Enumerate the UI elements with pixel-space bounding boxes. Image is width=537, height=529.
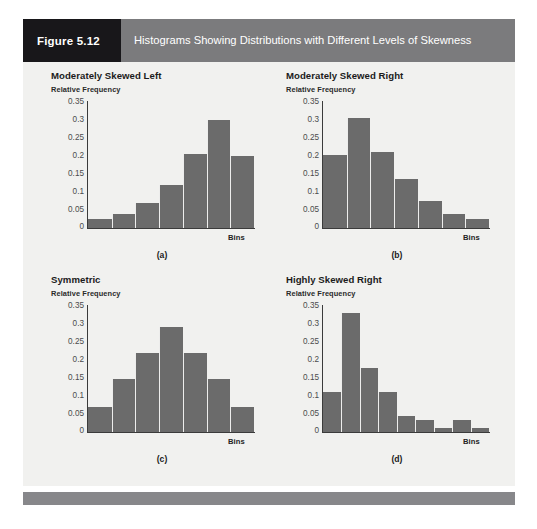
histogram-bar (347, 118, 371, 228)
y-tick-label: 0.35 (273, 302, 319, 310)
x-axis-line-b (322, 228, 490, 229)
y-tick-label: 0.25 (38, 338, 84, 346)
histogram-bar (88, 219, 112, 228)
y-tick-label: 0 (273, 427, 319, 435)
panel-caption-d: (d) (271, 454, 501, 464)
y-tick-label: 0.2 (38, 152, 84, 160)
histogram-bar (112, 214, 136, 228)
plot-area-d: 0.350.30.250.20.150.10.050 Bins (271, 274, 501, 470)
y-tick-labels-d: 0.350.30.250.20.150.10.050 (271, 274, 319, 470)
histogram-bar (415, 420, 433, 432)
histogram-bar (378, 392, 396, 432)
plot-area-a: 0.350.30.250.20.150.10.050 Bins (36, 70, 266, 266)
histogram-bar (370, 152, 394, 228)
histogram-bar (207, 120, 231, 228)
histogram-bar (159, 185, 183, 228)
figure-number-label: Figure 5.12 (23, 19, 121, 62)
histogram-bar (135, 203, 159, 228)
histogram-bar (183, 353, 207, 432)
y-tick-label: 0.05 (273, 206, 319, 214)
chart-panel-c: Symmetric Relative Frequency 0.350.30.25… (36, 274, 266, 470)
y-tick-labels-a: 0.350.30.250.20.150.10.050 (36, 70, 84, 266)
figure-body: Moderately Skewed Left Relative Frequenc… (23, 62, 515, 486)
x-axis-title-c: Bins (228, 437, 245, 446)
histogram-bar (394, 179, 418, 228)
y-tick-label: 0 (273, 223, 319, 231)
y-tick-label: 0.1 (273, 392, 319, 400)
y-tick-label: 0.3 (273, 116, 319, 124)
x-axis-title-d: Bins (463, 437, 480, 446)
bar-series-d (323, 306, 489, 432)
histogram-bar (360, 368, 378, 432)
y-tick-label: 0.1 (273, 188, 319, 196)
histogram-bar (112, 379, 136, 432)
histogram-bar (434, 428, 452, 432)
histogram-bar (442, 214, 466, 228)
y-tick-label: 0.25 (273, 338, 319, 346)
y-tick-label: 0 (38, 223, 84, 231)
x-axis-line-a (87, 228, 255, 229)
histogram-bar (452, 420, 470, 432)
histogram-bar (230, 407, 254, 432)
chart-panel-a: Moderately Skewed Left Relative Frequenc… (36, 70, 266, 266)
y-tick-label: 0.35 (38, 98, 84, 106)
y-tick-labels-b: 0.350.30.250.20.150.10.050 (271, 70, 319, 266)
histogram-bar (183, 154, 207, 228)
y-tick-label: 0.2 (38, 356, 84, 364)
y-tick-label: 0.3 (38, 116, 84, 124)
y-tick-label: 0.35 (38, 302, 84, 310)
y-tick-label: 0.3 (38, 320, 84, 328)
y-tick-label: 0.2 (273, 356, 319, 364)
histogram-bar (341, 313, 359, 432)
histogram-bar (418, 201, 442, 228)
y-tick-label: 0.05 (38, 410, 84, 418)
histogram-bar (159, 327, 183, 432)
panel-caption-b: (b) (271, 250, 501, 260)
y-tick-label: 0.25 (38, 134, 84, 142)
y-tick-label: 0.15 (273, 170, 319, 178)
y-tick-label: 0 (38, 427, 84, 435)
histogram-bar (323, 155, 347, 228)
y-tick-label: 0.1 (38, 392, 84, 400)
chart-panel-b: Moderately Skewed Right Relative Frequen… (271, 70, 501, 266)
figure-container: Figure 5.12 Histograms Showing Distribut… (0, 0, 537, 529)
x-axis-line-c (87, 432, 255, 433)
y-tick-label: 0.1 (38, 188, 84, 196)
plot-area-c: 0.350.30.250.20.150.10.050 Bins (36, 274, 266, 470)
figure-title: Histograms Showing Distributions with Di… (121, 19, 515, 62)
y-tick-label: 0.15 (38, 374, 84, 382)
figure-header: Figure 5.12 Histograms Showing Distribut… (23, 19, 515, 62)
y-tick-label: 0.25 (273, 134, 319, 142)
x-axis-title-b: Bins (463, 233, 480, 242)
panel-caption-c: (c) (36, 454, 266, 464)
histogram-bar (135, 353, 159, 432)
y-tick-label: 0.3 (273, 320, 319, 328)
x-axis-title-a: Bins (228, 233, 245, 242)
plot-area-b: 0.350.30.250.20.150.10.050 Bins (271, 70, 501, 266)
y-tick-label: 0.05 (273, 410, 319, 418)
histogram-bar (397, 416, 415, 432)
y-tick-label: 0.35 (273, 98, 319, 106)
y-tick-label: 0.15 (38, 170, 84, 178)
y-tick-label: 0.05 (38, 206, 84, 214)
panel-caption-a: (a) (36, 250, 266, 260)
figure-footer-bar (23, 492, 515, 505)
bar-series-b (323, 102, 489, 228)
y-tick-label: 0.2 (273, 152, 319, 160)
y-tick-label: 0.15 (273, 374, 319, 382)
histogram-bar (323, 392, 341, 432)
y-tick-labels-c: 0.350.30.250.20.150.10.050 (36, 274, 84, 470)
x-axis-line-d (322, 432, 490, 433)
histogram-bar (88, 407, 112, 432)
histogram-bar (230, 156, 254, 228)
histogram-bar (207, 379, 231, 432)
chart-panel-d: Highly Skewed Right Relative Frequency 0… (271, 274, 501, 470)
bar-series-c (88, 306, 254, 432)
histogram-bar (471, 428, 489, 432)
bar-series-a (88, 102, 254, 228)
histogram-bar (465, 219, 489, 228)
